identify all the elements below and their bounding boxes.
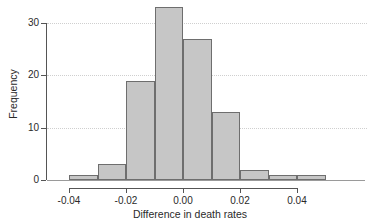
histogram-figure: 0102030 Frequency -0.04-0.020.000.020.04… — [0, 0, 380, 222]
histogram-bar — [240, 170, 269, 180]
x-tick-mark — [126, 188, 127, 193]
axis-baseline — [47, 180, 365, 181]
y-tick-label: 0 — [33, 175, 39, 185]
histogram-bar — [212, 112, 241, 180]
x-axis-title: Difference in death rates — [0, 208, 380, 220]
x-tick-label: 0.00 — [153, 196, 213, 206]
y-tick-label: 30 — [28, 18, 39, 28]
y-tick-mark-30 — [41, 23, 46, 24]
x-tick-label: -0.02 — [96, 196, 156, 206]
histogram-bar — [183, 39, 212, 180]
histogram-bar — [155, 7, 184, 180]
x-tick-label: -0.04 — [39, 196, 99, 206]
y-tick-label: 10 — [28, 123, 39, 133]
x-tick-label: 0.02 — [210, 196, 270, 206]
x-tick-label: 0.04 — [267, 196, 327, 206]
histogram-bar — [126, 81, 155, 180]
y-tick-mark-10 — [41, 128, 46, 129]
x-tick-mark — [183, 188, 184, 193]
x-tick-mark — [297, 188, 298, 193]
y-axis-title: Frequency — [7, 54, 19, 134]
histogram-bar — [98, 164, 127, 180]
y-tick-mark-20 — [41, 75, 46, 76]
plot-area — [47, 8, 367, 180]
y-tick-label: 20 — [28, 70, 39, 80]
y-axis-line — [46, 23, 47, 180]
x-tick-mark — [240, 188, 241, 193]
y-tick-mark-0 — [41, 180, 46, 181]
x-tick-mark — [69, 188, 70, 193]
